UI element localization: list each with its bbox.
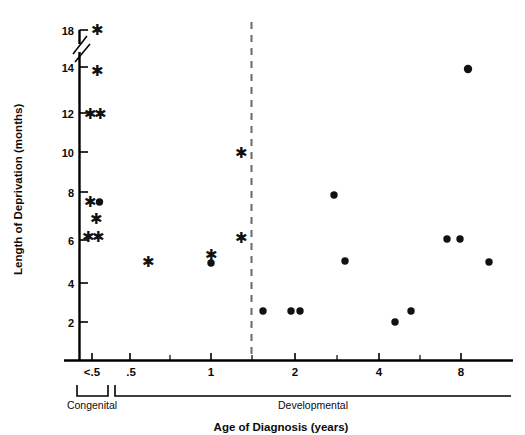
x-tick-label-4: 4 [376, 366, 383, 378]
congenital-label: Congenital [67, 399, 117, 411]
data-point-star: ✱ [92, 228, 105, 245]
x-tick-label-lt05: <.5 [84, 366, 101, 378]
data-point-dot [456, 235, 463, 242]
data-point-star: ✱ [235, 229, 248, 246]
data-point-dot [259, 307, 266, 314]
x-tick-label-05: .5 [126, 366, 136, 378]
data-point-dot [391, 318, 398, 325]
data-point-dot [287, 307, 294, 314]
plot-svg: 18 14 12 10 8 6 4 2 Length of Deprivatio… [0, 0, 525, 435]
data-point-dot [341, 257, 348, 264]
y-tick-label-2: 2 [68, 317, 74, 329]
data-point-dot [485, 258, 492, 265]
y-tick-label-4: 4 [68, 278, 75, 290]
data-point-star: ✱ [142, 253, 155, 270]
developmental-label: Developmental [278, 399, 348, 411]
y-tick-label-18: 18 [62, 25, 74, 37]
x-axis-title: Age of Diagnosis (years) [214, 421, 349, 433]
y-tick-label-10: 10 [62, 147, 74, 159]
y-tick-label-8: 8 [68, 187, 74, 199]
data-point-dot [443, 235, 450, 242]
data-point-dot [330, 191, 337, 198]
data-point-star: ✱ [91, 21, 104, 38]
data-point-dot [207, 259, 214, 266]
y-tick-label-14: 14 [62, 62, 75, 74]
data-point-star: ✱ [90, 210, 103, 227]
y-tick-label-12: 12 [62, 108, 74, 120]
data-point-dot [464, 65, 472, 73]
data-point-star: ✱ [91, 62, 104, 79]
data-point-star: ✱ [84, 193, 97, 210]
data-point-dot [96, 198, 103, 205]
x-tick-label-8: 8 [458, 366, 465, 378]
y-axis-title: Length of Deprivation (months) [12, 104, 24, 275]
data-point-star: ✱ [235, 144, 248, 161]
x-tick-label-1: 1 [208, 366, 215, 378]
x-tick-label-2: 2 [292, 366, 298, 378]
scatter-plot-figure: 18 14 12 10 8 6 4 2 Length of Deprivatio… [0, 0, 525, 435]
data-point-star: ✱ [94, 105, 107, 122]
y-tick-label-6: 6 [68, 235, 74, 247]
data-point-dot [407, 307, 414, 314]
data-point-dot [296, 307, 303, 314]
